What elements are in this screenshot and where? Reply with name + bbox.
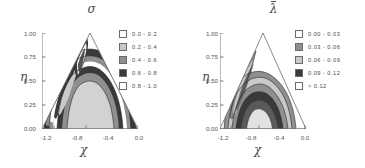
legend-item: 0.03 - 0.06 <box>295 41 340 53</box>
legend-item: 0.00 - 0.03 <box>295 28 340 40</box>
y-tick-label: 0.75 <box>10 53 36 60</box>
legend-label: 0.03 - 0.06 <box>308 44 340 50</box>
legend-label: 0.06 - 0.09 <box>308 57 340 63</box>
legend-label: 0.0 - 0.2 <box>132 31 157 37</box>
panel-title-lambda: λ <box>182 2 365 16</box>
panel-sigma: σ 1.00 0.75 0.50 0.25 0.00 η -1.2 -0.8 -… <box>0 0 183 168</box>
legend-item: 0.06 - 0.09 <box>295 54 340 66</box>
legend-swatch <box>119 56 127 64</box>
y-tick-label: 0.25 <box>192 101 218 108</box>
legend-item: 0.6 - 0.8 <box>119 67 157 79</box>
legend-swatch <box>119 69 127 77</box>
legend-item: 0.2 - 0.4 <box>119 41 157 53</box>
legend-item: 0.8 - 1.0 <box>119 80 157 92</box>
legend-swatch <box>119 30 127 38</box>
panel-title-lambda-text: λ <box>270 2 278 16</box>
y-tick-label: 0.75 <box>192 53 218 60</box>
legend-item: > 0.12 <box>295 80 340 92</box>
x-tick-label: -0.8 <box>238 134 264 141</box>
legend-lambda: 0.00 - 0.03 0.03 - 0.06 0.06 - 0.09 0.09… <box>295 28 340 93</box>
legend-swatch <box>119 82 127 90</box>
legend-item: 0.4 - 0.6 <box>119 54 157 66</box>
legend-label: 0.6 - 0.8 <box>132 70 157 76</box>
legend-sigma: 0.0 - 0.2 0.2 - 0.4 0.4 - 0.6 0.6 - 0.8 … <box>119 28 157 93</box>
panel-title-sigma: σ <box>0 2 183 16</box>
y-axis-label: η <box>20 70 27 84</box>
x-tick-label: -1.2 <box>33 134 59 141</box>
legend-item: 0.09 - 0.12 <box>295 67 340 79</box>
legend-label: 0.4 - 0.6 <box>132 57 157 63</box>
legend-swatch <box>119 43 127 51</box>
x-tick-label: -0.4 <box>95 134 121 141</box>
x-axis-label: χ <box>254 143 261 157</box>
contour-plot-lambda <box>220 33 306 129</box>
overbar <box>271 1 277 2</box>
legend-swatch <box>295 82 303 90</box>
x-tick-label: 0.0 <box>292 134 318 141</box>
legend-swatch <box>295 30 303 38</box>
x-tick-label: -1.2 <box>210 134 236 141</box>
legend-item: 0.0 - 0.2 <box>119 28 157 40</box>
x-axis-label: χ <box>80 143 87 157</box>
legend-label: > 0.12 <box>308 83 327 89</box>
panel-title-sigma-text: σ <box>87 2 95 16</box>
panel-lambda: λ 1.00 0.75 0.50 0.25 0.00 η -1.2 -0.8 -… <box>182 0 365 168</box>
y-tick-label: 1.00 <box>10 30 36 37</box>
x-tick-label: -0.4 <box>266 134 292 141</box>
x-tick-label: -0.8 <box>64 134 90 141</box>
legend-swatch <box>295 43 303 51</box>
legend-label: 0.2 - 0.4 <box>132 44 157 50</box>
y-tick-label: 0.00 <box>192 125 218 132</box>
legend-label: 0.09 - 0.12 <box>308 70 340 76</box>
legend-swatch <box>295 56 303 64</box>
y-axis-label: η <box>202 70 209 84</box>
legend-swatch <box>295 69 303 77</box>
legend-label: 0.00 - 0.03 <box>308 31 340 37</box>
y-tick-label: 0.25 <box>10 101 36 108</box>
contour-bands <box>220 33 306 129</box>
contour-figure: σ 1.00 0.75 0.50 0.25 0.00 η -1.2 -0.8 -… <box>0 0 365 168</box>
x-tick-label: 0.0 <box>126 134 152 141</box>
contour-svg-lambda <box>220 33 306 129</box>
y-tick-label: 1.00 <box>192 30 218 37</box>
y-tick-label: 0.00 <box>10 125 36 132</box>
legend-label: 0.8 - 1.0 <box>132 83 157 89</box>
